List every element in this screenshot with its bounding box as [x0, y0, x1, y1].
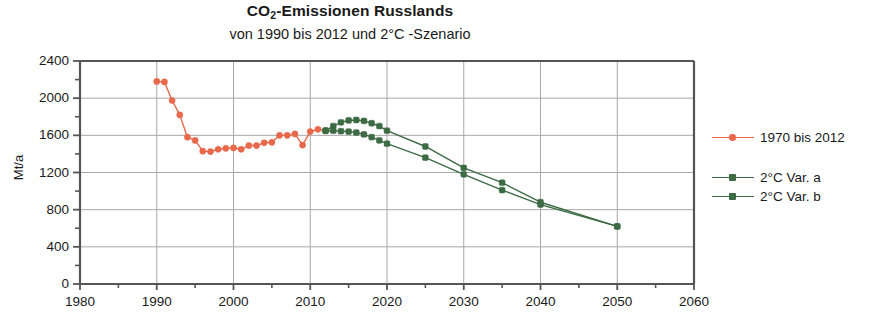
data-point-marker — [353, 130, 359, 136]
data-point-marker — [422, 155, 428, 161]
x-axis-tick-label: 2060 — [664, 295, 724, 309]
axis-ticks — [73, 61, 694, 290]
data-point-marker — [461, 165, 467, 171]
legend-item[interactable]: 1970 bis 2012 — [712, 128, 867, 147]
legend-item[interactable]: 2°C Var. b — [712, 187, 867, 206]
data-point-marker — [223, 145, 229, 151]
legend-swatch — [712, 172, 754, 184]
series-2 — [323, 117, 620, 229]
x-axis-tick-label: 2040 — [511, 295, 571, 309]
data-point-marker — [215, 146, 221, 152]
data-point-marker — [330, 128, 336, 134]
legend-label: 1970 bis 2012 — [754, 130, 845, 145]
data-point-marker — [369, 120, 375, 126]
chart-title-main: CO — [247, 2, 270, 19]
chart-title-rest: -Emissionen Russlands — [276, 2, 453, 19]
series-3 — [323, 128, 620, 230]
data-point-marker — [315, 126, 321, 132]
data-point-marker — [346, 129, 352, 135]
data-point-marker — [207, 148, 213, 154]
legend-label: 2°C Var. a — [754, 170, 821, 185]
data-point-marker — [376, 138, 382, 144]
series-1 — [154, 78, 329, 154]
data-point-marker — [269, 139, 275, 145]
data-point-marker — [376, 123, 382, 129]
data-point-marker — [499, 187, 505, 193]
data-point-marker — [361, 132, 367, 138]
data-point-marker — [299, 142, 305, 148]
y-axis-tick-label: 0 — [25, 277, 69, 291]
legend-marker — [729, 134, 736, 141]
y-axis-tick-label: 400 — [25, 240, 69, 254]
x-axis-tick-label: 2020 — [357, 295, 417, 309]
data-point-marker — [154, 78, 160, 84]
legend-item[interactable]: 2°C Var. a — [712, 168, 867, 187]
data-point-marker — [246, 142, 252, 148]
data-point-marker — [276, 132, 282, 138]
data-point-marker — [369, 134, 375, 140]
chart-legend: 1970 bis 20122°C Var. a2°C Var. b — [712, 128, 867, 206]
data-point-marker — [461, 171, 467, 177]
chart-figure: CO2-Emissionen Russlands von 1990 bis 20… — [0, 0, 869, 314]
data-point-marker — [177, 112, 183, 118]
chart-title: CO2-Emissionen Russlands — [0, 2, 700, 20]
legend-label: 2°C Var. b — [754, 189, 821, 204]
chart-subtitle: von 1990 bis 2012 und 2°C -Szenario — [0, 26, 700, 42]
chart-title-subscript: 2 — [270, 9, 276, 21]
data-point-marker — [384, 141, 390, 147]
data-point-marker — [323, 128, 329, 134]
x-axis-tick-label: 2050 — [587, 295, 647, 309]
data-point-marker — [422, 144, 428, 150]
data-point-marker — [353, 117, 359, 123]
data-point-marker — [261, 140, 267, 146]
legend-marker — [729, 174, 736, 181]
data-point-marker — [238, 146, 244, 152]
data-point-marker — [292, 131, 298, 137]
legend-marker — [729, 193, 736, 200]
y-axis-tick-label: 1600 — [25, 128, 69, 142]
data-point-marker — [538, 202, 544, 208]
data-point-marker — [307, 129, 313, 135]
data-point-marker — [284, 132, 290, 138]
data-point-marker — [192, 137, 198, 143]
data-point-marker — [200, 148, 206, 154]
y-axis-tick-label: 2400 — [25, 54, 69, 68]
y-axis-tick-label: 2000 — [25, 91, 69, 105]
y-axis-tick-label: 800 — [25, 203, 69, 217]
data-point-marker — [499, 180, 505, 186]
data-point-marker — [338, 128, 344, 134]
data-point-marker — [169, 97, 175, 103]
x-axis-tick-label: 1990 — [127, 295, 187, 309]
data-point-marker — [161, 79, 167, 85]
x-axis-tick-label: 2010 — [280, 295, 340, 309]
data-point-marker — [614, 223, 620, 229]
y-axis-tick-label: 1200 — [25, 166, 69, 180]
grid-lines — [80, 61, 694, 284]
x-axis-tick-label: 1980 — [50, 295, 110, 309]
data-point-marker — [230, 145, 236, 151]
y-axis-label: Mt/a — [11, 138, 26, 198]
data-point-marker — [253, 142, 259, 148]
x-axis-tick-label: 2030 — [434, 295, 494, 309]
x-axis-tick-label: 2000 — [204, 295, 264, 309]
data-point-marker — [338, 119, 344, 125]
data-point-marker — [184, 134, 190, 140]
data-point-marker — [361, 118, 367, 124]
legend-swatch — [712, 132, 754, 144]
data-point-marker — [346, 118, 352, 124]
data-point-marker — [384, 128, 390, 134]
legend-swatch — [712, 191, 754, 203]
